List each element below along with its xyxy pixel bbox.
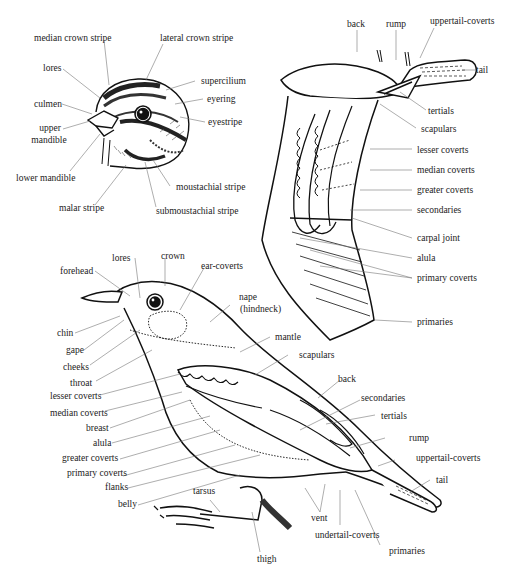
label-lores-head: lores — [43, 63, 61, 74]
label-alula-body: alula — [93, 438, 111, 449]
label-gape: gape — [66, 345, 84, 356]
label-breast: breast — [86, 423, 109, 434]
label-rump-body: rump — [409, 433, 429, 444]
label-upper-mandible-line2: mandible — [27, 135, 71, 146]
label-uppertail-coverts-wing: uppertail-coverts — [430, 16, 494, 27]
bird-topography-diagram: median crown stripe lateral crown stripe… — [0, 0, 505, 580]
bird-illustrations — [0, 0, 505, 580]
label-median-coverts-wing: median coverts — [417, 165, 475, 176]
label-vent: vent — [311, 513, 327, 524]
label-lesser-coverts-wing: lesser coverts — [417, 145, 468, 156]
label-undertail-coverts: undertail-coverts — [315, 530, 379, 541]
label-secondaries-wing: secondaries — [417, 205, 461, 216]
head-detail-drawing — [88, 79, 189, 169]
label-throat: throat — [70, 378, 92, 389]
label-belly: belly — [118, 499, 137, 510]
label-back-wing: back — [347, 19, 365, 30]
label-median-crown-stripe: median crown stripe — [34, 33, 112, 44]
label-primaries-wing: primaries — [417, 317, 453, 328]
label-primaries-body: primaries — [389, 546, 425, 557]
label-median-coverts-body: median coverts — [50, 408, 108, 419]
label-back-body: back — [338, 374, 356, 385]
label-cheeks: cheeks — [63, 362, 89, 373]
label-alula-wing: alula — [417, 253, 435, 264]
label-lesser-coverts-body: lesser coverts — [50, 391, 101, 402]
label-rump-wing: rump — [386, 19, 406, 30]
label-tarsus: tarsus — [193, 486, 215, 497]
label-thigh: thigh — [257, 554, 277, 565]
label-greater-coverts-body: greater coverts — [62, 453, 118, 464]
label-greater-coverts-wing: greater coverts — [417, 185, 473, 196]
label-crown: crown — [161, 251, 185, 262]
label-lores-body: lores — [112, 253, 130, 264]
label-secondaries-body: secondaries — [361, 393, 405, 404]
label-scapulars-wing: scapulars — [421, 124, 456, 135]
label-flanks: flanks — [105, 482, 128, 493]
label-supercilium: supercilium — [201, 76, 246, 87]
label-scapulars-body: scapulars — [299, 350, 334, 361]
label-tail-body: tail — [436, 475, 448, 486]
label-tertials-body: tertials — [381, 411, 407, 422]
label-submoustachial-stripe: submoustachial stripe — [156, 206, 239, 217]
label-tail-wing: tail — [476, 65, 488, 76]
label-chin: chin — [57, 328, 73, 339]
label-primary-coverts-wing: primary coverts — [417, 273, 477, 284]
label-uppertail-coverts-body: uppertail-coverts — [416, 453, 480, 464]
label-eyering: eyering — [207, 94, 236, 105]
label-primary-coverts-body: primary coverts — [67, 468, 127, 479]
label-carpal-joint: carpal joint — [417, 233, 460, 244]
label-forehead: forehead — [60, 266, 93, 277]
label-lateral-crown-stripe: lateral crown stripe — [160, 33, 233, 44]
label-tertials-wing: tertials — [428, 106, 454, 117]
label-mantle: mantle — [275, 332, 301, 343]
label-eyestripe: eyestripe — [208, 117, 242, 128]
label-moustachial-stripe: moustachial stripe — [176, 182, 245, 193]
label-culmen: culmen — [34, 99, 62, 110]
label-nape-line1: nape — [239, 292, 257, 303]
label-malar-stripe: malar stripe — [59, 203, 104, 214]
label-lower-mandible: lower mandible — [16, 173, 75, 184]
label-nape-line2: (hindneck) — [240, 304, 281, 315]
label-upper-mandible-line1: upper — [36, 123, 64, 134]
body-drawing — [82, 282, 441, 528]
label-ear-coverts: ear-coverts — [201, 261, 243, 272]
